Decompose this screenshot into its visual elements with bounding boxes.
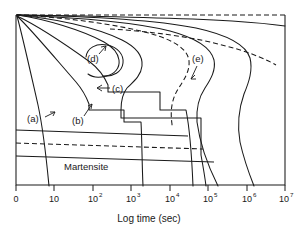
annotation-b-label: (b): [72, 115, 84, 126]
annotation-d-label: (d): [87, 53, 99, 64]
annotation-e: (e): [191, 53, 204, 79]
x-axis-tick-labels: 0 10 10 2 10 3 10 4 10 5 10 6 10 7: [13, 191, 294, 204]
ms-line-upper: [16, 130, 188, 136]
x-tick-label-7-exp: 7: [290, 191, 294, 198]
curve-e: [17, 15, 218, 186]
ms-line-dashed: [16, 143, 203, 149]
x-tick-label-6: 10 6: [242, 191, 257, 204]
x-tick-label-1: 10: [49, 194, 59, 204]
x-tick-label-0: 0: [13, 194, 18, 204]
x-tick-label-4: 10 4: [165, 191, 180, 204]
x-tick-label-7: 10 7: [279, 191, 294, 204]
x-tick-label-3-base: 10: [126, 194, 136, 204]
curve-a: [17, 16, 49, 186]
x-tick-label-5: 10 5: [203, 191, 218, 204]
x-tick-label-3-exp: 3: [137, 191, 141, 198]
x-tick-label-5-base: 10: [203, 194, 213, 204]
annotation-e-leader: [191, 66, 197, 79]
x-tick-label-7-base: 10: [279, 194, 289, 204]
x-axis-ticks: [16, 185, 285, 191]
x-tick-label-5-exp: 5: [214, 191, 218, 198]
x-tick-label-2-exp: 2: [99, 191, 103, 198]
x-tick-label-4-exp: 4: [176, 191, 180, 198]
x-tick-label-3: 10 3: [126, 191, 141, 204]
field-label-martensite: Martensite: [64, 161, 108, 172]
x-tick-label-4-base: 10: [165, 194, 175, 204]
ttt-diagram-figure: 0 10 10 2 10 3 10 4 10 5 10 6 10 7 Log t…: [0, 0, 298, 232]
annotation-e-label: (e): [192, 53, 204, 64]
x-tick-label-2-base: 10: [88, 194, 98, 204]
x-tick-label-6-exp: 6: [253, 191, 257, 198]
curve-outer: [17, 15, 254, 186]
x-tick-label-2: 10 2: [88, 191, 103, 204]
x-axis-title: Log time (sec): [117, 213, 180, 224]
annotation-c-label: (c): [112, 83, 123, 94]
annotation-a-label: (a): [27, 113, 39, 124]
chart-svg: 0 10 10 2 10 3 10 4 10 5 10 6 10 7 Log t…: [0, 0, 298, 232]
x-tick-label-6-base: 10: [242, 194, 252, 204]
curve-mid-nose: [17, 15, 206, 186]
martensite-lines: [16, 130, 214, 162]
